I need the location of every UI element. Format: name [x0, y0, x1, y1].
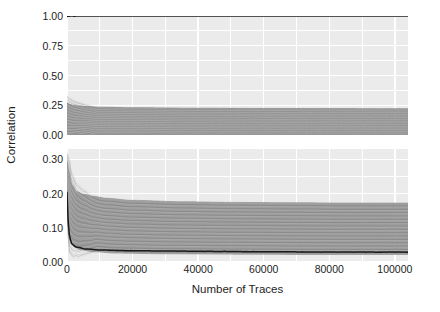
series-layer-top-panel — [67, 16, 408, 135]
y-axis-tick-label: 0.10 — [23, 223, 63, 234]
y-axis-tick-label: 0.00 — [23, 130, 63, 141]
x-axis-title: Number of Traces — [67, 283, 408, 295]
highlighted-key-curve — [67, 16, 408, 17]
key-candidate-trace — [67, 153, 408, 205]
key-candidate-trace — [67, 154, 408, 206]
x-axis-tick-label: 60000 — [249, 264, 278, 275]
y-axis-ticks-top-panel: 0.000.250.500.751.00 — [22, 16, 63, 135]
y-axis-tick-label: 0.20 — [23, 188, 63, 199]
x-axis-tick-label: 20000 — [118, 264, 147, 275]
y-axis-ticks-bottom-panel: 0.000.100.200.30 — [22, 149, 63, 262]
x-axis-tick-label: 40000 — [184, 264, 213, 275]
key-candidate-envelope — [67, 103, 408, 109]
plot-panel-bottom — [67, 149, 408, 262]
y-axis-title-text: Correlation — [5, 106, 17, 163]
plot-panel-top — [67, 16, 408, 135]
y-axis-tick-label: 1.00 — [23, 11, 63, 22]
key-candidate-trace — [67, 95, 408, 109]
key-candidate-trace — [67, 152, 408, 204]
y-axis-tick-label: 0.25 — [23, 100, 63, 111]
x-axis-ticks: 020000400006000080000100000 — [67, 264, 408, 280]
correlation-chart-figure: Correlation 0.000.250.500.751.00 0.000.1… — [0, 0, 440, 312]
x-axis-tick-label: 80000 — [315, 264, 344, 275]
y-axis-tick-label: 0.30 — [23, 154, 63, 165]
y-axis-tick-label: 0.50 — [23, 70, 63, 81]
y-axis-tick-label: 0.75 — [23, 41, 63, 52]
x-axis-tick-label: 0 — [64, 264, 70, 275]
key-candidate-envelope — [67, 161, 408, 203]
y-axis-title: Correlation — [0, 0, 22, 270]
series-layer-bottom-panel — [67, 149, 408, 262]
x-axis-tick-label: 100000 — [377, 264, 412, 275]
y-axis-tick-label: 0.00 — [23, 257, 63, 268]
